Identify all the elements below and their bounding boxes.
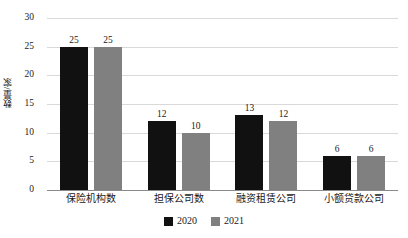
bar-value-label: 12 [268,109,298,119]
x-axis-tick-labels: 保险机构数担保公司数融资租赁公司小额贷款公司 [47,193,398,205]
legend-item-2020[interactable]: 2020 [164,216,197,226]
y-axis-tick-label: 10 [12,128,34,138]
bar-group: 2525 [47,18,135,190]
bar-2020-小额贷款公司[interactable] [323,156,351,190]
bar-wrapper: 12 [148,18,176,190]
bar-value-label: 6 [356,144,386,154]
bar-value-label: 12 [147,109,177,119]
bar-group: 66 [310,18,398,190]
y-axis-tick-label: 0 [12,185,34,195]
bar-group: 1210 [135,18,223,190]
x-axis-tick-label: 小额贷款公司 [310,193,398,205]
y-axis-tick-label: 25 [12,42,34,52]
bar-value-label: 13 [234,103,264,113]
bar-value-label: 10 [181,121,211,131]
bar-wrapper: 10 [182,18,210,190]
legend-swatch-icon [164,217,173,226]
x-axis-tick-label: 融资租赁公司 [223,193,311,205]
bar-groups: 25251210131266 [47,18,398,190]
y-axis-tick-label: 5 [12,156,34,166]
bar-2021-担保公司数[interactable] [182,133,210,190]
bar-chart: 数量/家 051015202530 25251210131266 保险机构数担保… [0,0,408,238]
y-axis-tick-label: 15 [12,99,34,109]
x-axis-tick-label: 担保公司数 [135,193,223,205]
y-axis-tick-label: 30 [12,13,34,23]
legend-swatch-icon [211,217,220,226]
bar-wrapper: 6 [357,18,385,190]
x-axis-tick-label: 保险机构数 [47,193,135,205]
legend-label: 2020 [177,216,197,226]
bar-2020-保险机构数[interactable] [60,47,88,190]
bar-wrapper: 25 [94,18,122,190]
bar-wrapper: 12 [269,18,297,190]
bar-value-label: 25 [93,35,123,45]
legend-label: 2021 [224,216,244,226]
bar-wrapper: 13 [235,18,263,190]
bar-2020-融资租赁公司[interactable] [235,115,263,190]
bar-group: 1312 [223,18,311,190]
bar-2020-担保公司数[interactable] [148,121,176,190]
bar-2021-小额贷款公司[interactable] [357,156,385,190]
axis-baseline [47,190,398,191]
bar-wrapper: 25 [60,18,88,190]
plot-area: 051015202530 25251210131266 [47,18,398,190]
legend-item-2021[interactable]: 2021 [211,216,244,226]
bar-2021-保险机构数[interactable] [94,47,122,190]
bar-2021-融资租赁公司[interactable] [269,121,297,190]
legend: 20202021 [0,216,408,226]
bar-value-label: 6 [322,144,352,154]
bar-wrapper: 6 [323,18,351,190]
bar-value-label: 25 [59,35,89,45]
y-axis-tick-label: 20 [12,70,34,80]
